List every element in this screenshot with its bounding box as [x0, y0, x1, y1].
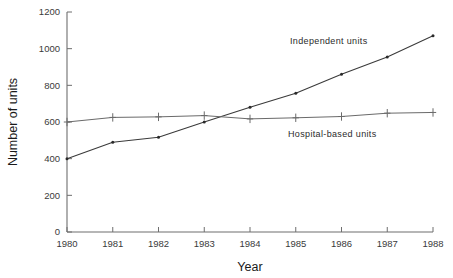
data-point: [201, 111, 207, 119]
data-point: [157, 136, 160, 139]
data-point: [110, 113, 116, 121]
data-point: [432, 34, 435, 37]
data-point: [430, 108, 436, 116]
x-tick-label: 1984: [239, 238, 260, 249]
x-tick-label: 1981: [102, 238, 123, 249]
series-line-0: [67, 36, 433, 159]
x-axis-ticks: 198019811982198319841985198619871988: [56, 227, 443, 249]
data-point: [66, 157, 69, 160]
y-tick-label: 600: [44, 116, 60, 127]
series-group: [67, 36, 433, 159]
x-tick-label: 1988: [422, 238, 443, 249]
series-label-1: Hospital-based units: [288, 129, 377, 139]
x-tick-label: 1983: [194, 238, 215, 249]
data-point: [386, 55, 389, 58]
line-chart: Number of units Year 0200400600800100012…: [0, 0, 453, 278]
data-point: [247, 115, 253, 123]
data-point: [384, 109, 390, 117]
y-tick-label: 0: [55, 226, 60, 237]
y-tick-label: 200: [44, 190, 60, 201]
data-point: [294, 92, 297, 95]
x-tick-label: 1985: [285, 238, 306, 249]
data-point: [64, 118, 70, 126]
x-tick-label: 1982: [148, 238, 169, 249]
chart-container: Number of units Year 0200400600800100012…: [0, 0, 453, 278]
series-label-0: Independent units: [290, 36, 368, 46]
data-point: [340, 73, 343, 76]
y-tick-label: 800: [44, 80, 60, 91]
data-point: [155, 113, 161, 121]
series-annotations: Independent unitsHospital-based units: [288, 36, 377, 139]
y-tick-label: 1000: [39, 43, 60, 54]
data-point: [249, 106, 252, 109]
data-point: [338, 112, 344, 120]
x-tick-label: 1986: [331, 238, 352, 249]
x-axis-title: Year: [237, 260, 262, 274]
x-tick-label: 1987: [377, 238, 398, 249]
y-tick-label: 1200: [39, 6, 60, 17]
data-point: [203, 121, 206, 124]
data-point: [111, 141, 114, 144]
data-point: [293, 114, 299, 122]
x-tick-label: 1980: [56, 238, 77, 249]
y-tick-label: 400: [44, 153, 60, 164]
y-axis-title: Number of units: [6, 78, 20, 166]
